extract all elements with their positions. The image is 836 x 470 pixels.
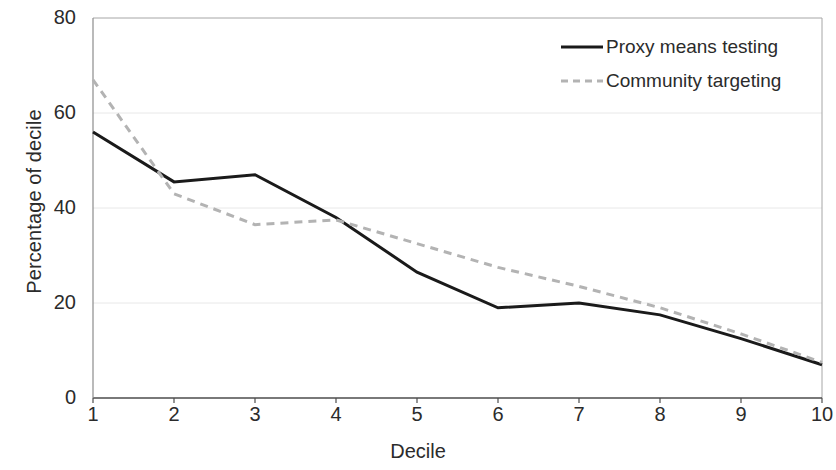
legend: Proxy means testing Community targeting xyxy=(560,30,810,98)
x-tick-label: 3 xyxy=(235,404,275,424)
x-tick-label: 1 xyxy=(73,404,113,424)
x-tick-label: 10 xyxy=(802,404,836,424)
line-chart: 0 20 40 60 80 12345678910 Percentage of … xyxy=(0,0,836,470)
legend-line-icon-solid xyxy=(560,41,604,53)
x-tick-label: 2 xyxy=(154,404,194,424)
legend-label: Community targeting xyxy=(604,70,781,92)
legend-item-community-targeting: Community targeting xyxy=(560,64,810,98)
y-axis-title: Percentage of decile xyxy=(23,72,46,332)
x-tick-label: 7 xyxy=(559,404,599,424)
legend-label: Proxy means testing xyxy=(604,36,778,58)
x-tick-label: 8 xyxy=(640,404,680,424)
x-tick-marks xyxy=(93,398,822,403)
x-tick-label: 4 xyxy=(316,404,356,424)
legend-item-proxy-means-testing: Proxy means testing xyxy=(560,30,810,64)
legend-line-icon-dashed xyxy=(560,75,604,87)
x-axis-title: Decile xyxy=(0,440,836,463)
x-tick-label: 9 xyxy=(721,404,761,424)
x-tick-label: 6 xyxy=(478,404,518,424)
y-tick-label: 0 xyxy=(16,387,76,407)
y-tick-label: 80 xyxy=(16,7,76,27)
x-tick-label: 5 xyxy=(397,404,437,424)
